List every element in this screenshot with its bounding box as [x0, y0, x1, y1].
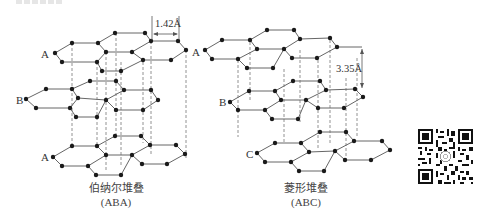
abc-layer-c	[255, 130, 392, 173]
abc-caption: 菱形堆叠	[284, 182, 328, 195]
aba-bond-length-dimension: 1.42Å	[152, 16, 181, 40]
aba-interlayer-dashes	[72, 33, 186, 172]
aba-layer-a-bottom	[51, 134, 187, 177]
abc-panel: 3.35Å	[203, 28, 392, 209]
interlayer-spacing-label: 3.35Å	[336, 63, 362, 74]
aba-label-middle: B	[16, 94, 23, 106]
aba-label-top-right: A	[192, 46, 200, 58]
abc-label-middle: B	[219, 96, 226, 108]
aba-panel: 1.42Å	[16, 16, 200, 209]
aba-label-bottom: A	[41, 151, 49, 163]
aba-caption: 伯纳尔堆叠	[89, 181, 144, 195]
bond-length-label: 1.42Å	[155, 18, 181, 29]
aba-caption-abbrev: (ABA)	[101, 196, 132, 209]
qr-code[interactable]	[418, 129, 473, 184]
graphite-stacking-diagram: 1.42Å	[0, 0, 485, 217]
abc-caption-abbrev: (ABC)	[291, 196, 321, 209]
aba-label-top-left: A	[41, 48, 49, 60]
abc-label-bottom: C	[246, 148, 253, 160]
abc-interlayer-dimension: 3.35Å	[336, 49, 364, 88]
aba-layer-a-top	[53, 31, 188, 73]
aba-layer-b	[24, 79, 160, 119]
abc-layer-b	[228, 79, 365, 121]
